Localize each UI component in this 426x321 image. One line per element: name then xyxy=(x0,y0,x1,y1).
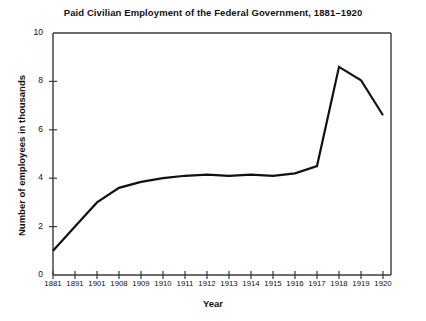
axes xyxy=(53,33,391,275)
plot-area xyxy=(0,0,426,321)
tick-marks xyxy=(49,81,383,279)
chart-container: Paid Civilian Employment of the Federal … xyxy=(0,0,426,321)
data-series-line xyxy=(53,67,383,251)
